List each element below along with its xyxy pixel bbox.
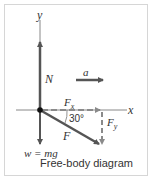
angle-label: 30° [69, 113, 84, 124]
acceleration-label: a [83, 66, 89, 78]
free-body-diagram: y x N w = mg a Fx Fy F 30° [0, 0, 154, 180]
x-axis-label: x [127, 103, 134, 117]
normal-force-label: N [44, 72, 54, 86]
applied-force-label: F [62, 129, 71, 143]
fx-label: Fx [63, 96, 75, 111]
diagram-caption: Free-body diagram [40, 157, 150, 169]
angle-arc [65, 110, 67, 123]
y-axis-label: y [36, 8, 43, 22]
origin-point [37, 107, 43, 113]
fy-label: Fy [106, 116, 118, 131]
